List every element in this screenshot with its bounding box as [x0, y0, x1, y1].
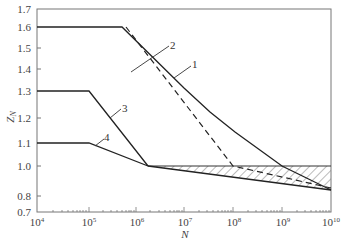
svg-text:1.4: 1.4	[17, 63, 31, 75]
svg-text:1.3: 1.3	[17, 85, 31, 97]
svg-text:107: 107	[178, 216, 193, 228]
curve-2	[126, 27, 331, 188]
y-axis-title: ZN	[4, 111, 18, 123]
svg-text:1.6: 1.6	[17, 21, 31, 33]
x-axis-title: N	[180, 228, 189, 240]
svg-text:1.0: 1.0	[17, 160, 31, 172]
svg-text:105: 105	[82, 216, 97, 228]
svg-text:1010: 1010	[322, 216, 341, 228]
svg-text:104: 104	[30, 216, 45, 228]
svg-text:1.7: 1.7	[17, 3, 31, 15]
x-tick-labels: 104 105 106 107 108 109 1010	[30, 216, 341, 228]
x-ticks	[53, 207, 329, 212]
curve-label-1: 1	[192, 58, 198, 70]
svg-text:106: 106	[130, 216, 145, 228]
curve-label-4: 4	[104, 131, 110, 143]
curve-label-3: 3	[122, 102, 128, 114]
curve-3	[37, 91, 148, 166]
svg-text:0.8: 0.8	[17, 190, 31, 202]
svg-text:1.1: 1.1	[17, 137, 31, 149]
chart: 2 1 3 4 1.7 1.6 1.5 1.4 1.3 1.2 1.1 1.0 …	[0, 0, 344, 242]
svg-text:1.5: 1.5	[17, 42, 31, 54]
svg-text:108: 108	[227, 216, 242, 228]
svg-text:ZN: ZN	[4, 111, 18, 123]
svg-text:109: 109	[276, 216, 291, 228]
curve-4	[37, 143, 148, 166]
curve-label-2: 2	[170, 39, 176, 51]
y-ticks	[37, 48, 41, 196]
svg-text:1.2: 1.2	[17, 112, 31, 124]
y-tick-labels: 1.7 1.6 1.5 1.4 1.3 1.2 1.1 1.0 0.8 0.7	[17, 3, 31, 218]
